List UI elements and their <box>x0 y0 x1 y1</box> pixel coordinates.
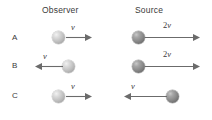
source-speed-symbol-row-a: v <box>167 20 171 30</box>
observer-speed-symbol-row-c: v <box>71 81 75 91</box>
source-velocity-label-row-b: 2v <box>163 49 171 59</box>
observer-velocity-arrow-row-a <box>66 33 92 42</box>
column-header-source: Source <box>135 5 163 15</box>
source-velocity-arrow-row-c <box>124 92 167 101</box>
source-ball-row-b <box>132 60 145 73</box>
observer-velocity-arrow-row-b <box>35 62 63 71</box>
source-velocity-label-row-a: 2v <box>163 20 171 30</box>
observer-velocity-label-row-b: v <box>43 51 47 61</box>
observer-ball-row-a <box>52 31 65 44</box>
observer-speed-symbol-row-b: v <box>43 51 47 61</box>
observer-ball-row-b <box>62 60 75 73</box>
row-label-b: B <box>12 61 17 70</box>
observer-velocity-label-row-c: v <box>71 81 75 91</box>
source-ball-row-a <box>132 31 145 44</box>
source-velocity-arrow-row-a <box>145 33 200 42</box>
source-speed-symbol-row-b: v <box>167 49 171 59</box>
observer-speed-symbol-row-a: v <box>71 22 75 32</box>
row-label-c: C <box>12 91 18 100</box>
column-header-observer: Observer <box>42 5 79 15</box>
doppler-effect-diagram: Observer Source A v 2v B v <box>0 0 212 120</box>
row-label-a: A <box>12 33 17 42</box>
observer-velocity-arrow-row-c <box>66 92 92 101</box>
observer-ball-row-c <box>52 90 65 103</box>
source-ball-row-c <box>166 90 179 103</box>
source-velocity-arrow-row-b <box>145 62 200 71</box>
source-speed-symbol-row-c: v <box>131 81 135 91</box>
source-velocity-label-row-c: v <box>131 81 135 91</box>
observer-velocity-label-row-a: v <box>71 22 75 32</box>
